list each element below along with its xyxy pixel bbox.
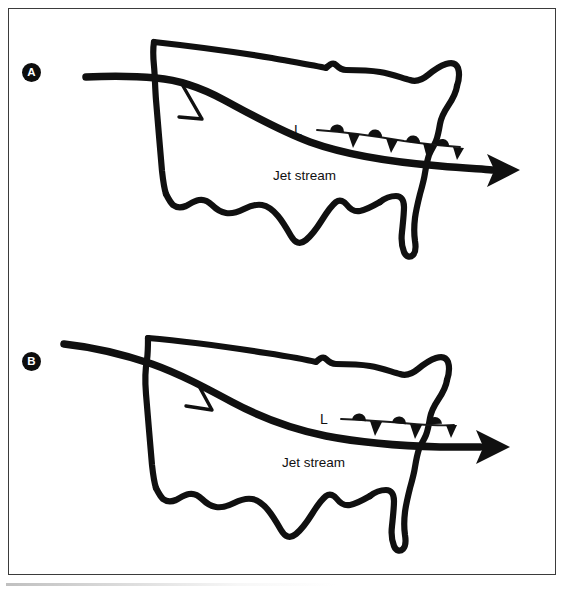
page-edge-artifact	[6, 583, 336, 586]
panel-a-badge: A	[22, 63, 41, 82]
panel-b-badge: B	[22, 352, 41, 371]
panel-b-low-pressure-label: L	[320, 411, 328, 427]
figure-frame	[8, 8, 556, 575]
panel-b-jet-stream-label: Jet stream	[282, 455, 345, 470]
panel-a-low-pressure-label: L	[294, 122, 302, 138]
figure-root: .coast { fill: none; stroke: #101010; st…	[0, 0, 570, 590]
panel-a-jet-stream-label: Jet stream	[273, 168, 336, 183]
